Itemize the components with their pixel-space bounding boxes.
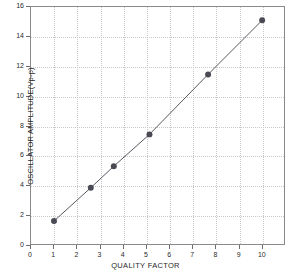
y-tick-label: 0 xyxy=(4,241,24,249)
y-tick-mark xyxy=(26,245,30,246)
y-axis-title-container: OSCILLATOR AMPLITUDE(Vp-p) xyxy=(19,16,31,236)
x-tick-label: 8 xyxy=(205,250,225,259)
y-axis-title: OSCILLATOR AMPLITUDE(Vp-p) xyxy=(26,67,35,184)
series-markers xyxy=(51,17,265,224)
data-point xyxy=(146,131,152,137)
x-tick-mark xyxy=(76,245,77,249)
data-point xyxy=(88,185,94,191)
x-tick-mark xyxy=(123,245,124,249)
x-tick-mark xyxy=(262,245,263,249)
data-series-layer xyxy=(31,7,284,244)
x-tick-mark xyxy=(146,245,147,249)
x-tick-label: 9 xyxy=(229,250,249,259)
x-tick-mark xyxy=(100,245,101,249)
x-tick-label: 1 xyxy=(43,250,63,259)
x-tick-mark xyxy=(30,245,31,249)
plot-area xyxy=(30,6,285,245)
x-tick-label: 3 xyxy=(90,250,110,259)
x-tick-mark xyxy=(215,245,216,249)
data-point xyxy=(259,17,265,23)
x-tick-mark xyxy=(169,245,170,249)
x-tick-label: 6 xyxy=(159,250,179,259)
x-tick-mark xyxy=(53,245,54,249)
y-tick-label: 16 xyxy=(4,2,24,10)
x-tick-label: 4 xyxy=(113,250,133,259)
x-axis-title: QUALITY FACTOR xyxy=(0,261,291,270)
chart-figure: 012345678910 0246810121416 QUALITY FACTO… xyxy=(0,0,291,275)
data-point xyxy=(51,218,57,224)
x-tick-label: 10 xyxy=(252,250,272,259)
x-tick-mark xyxy=(192,245,193,249)
y-tick-mark xyxy=(26,6,30,7)
x-tick-label: 5 xyxy=(136,250,156,259)
x-tick-mark xyxy=(239,245,240,249)
data-point xyxy=(205,71,211,77)
x-tick-label: 7 xyxy=(182,250,202,259)
data-point xyxy=(111,163,117,169)
x-tick-label: 0 xyxy=(20,250,40,259)
series-line xyxy=(54,20,262,221)
x-tick-label: 2 xyxy=(66,250,86,259)
